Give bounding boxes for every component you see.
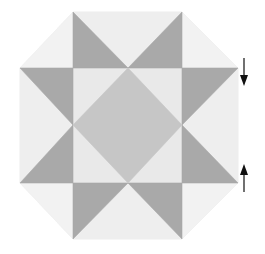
corner-top-right (182, 12, 238, 68)
quilt-block-diagram (0, 0, 265, 254)
corner-bottom-left (20, 183, 73, 239)
direction-arrows (240, 58, 248, 192)
corner-top-left (20, 12, 73, 68)
arrow-up-icon (240, 164, 248, 192)
corner-bottom-right (182, 183, 238, 239)
arrow-down-icon (240, 58, 248, 86)
quilt-shapes (20, 12, 238, 239)
